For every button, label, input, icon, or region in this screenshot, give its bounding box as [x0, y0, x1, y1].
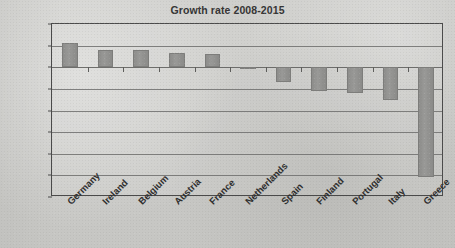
x-axis-tick — [88, 67, 89, 72]
y-tick-mark — [48, 175, 52, 176]
plot-area — [51, 23, 443, 196]
bar-ireland — [98, 50, 114, 67]
gridline--15% — [52, 132, 442, 133]
bar-belgium — [133, 50, 149, 67]
y-tick-mark — [48, 67, 52, 68]
x-axis-tick — [266, 67, 267, 72]
gridline--25% — [52, 175, 442, 176]
bar-spain — [276, 67, 292, 82]
x-axis-tick — [301, 67, 302, 72]
x-axis-tick — [408, 67, 409, 72]
chart-page: Growth rate 2008-2015 10%5%0%-5%-10%-15%… — [0, 0, 455, 248]
y-tick-mark — [48, 45, 52, 46]
x-axis-tick — [195, 67, 196, 72]
y-tick-mark — [48, 153, 52, 154]
y-tick-mark — [48, 88, 52, 89]
bar-portugal — [347, 67, 363, 93]
x-axis-tick — [123, 67, 124, 72]
bar-germany — [62, 43, 78, 68]
chart-title: Growth rate 2008-2015 — [0, 4, 455, 16]
bar-france — [205, 54, 221, 67]
gridline--10% — [52, 111, 442, 112]
y-tick-mark — [48, 132, 52, 133]
gridline-5% — [52, 46, 442, 47]
x-axis-tick — [230, 67, 231, 72]
bar-austria — [169, 53, 185, 67]
bar-finland — [311, 67, 327, 91]
y-tick-mark — [48, 110, 52, 111]
gridline--20% — [52, 154, 442, 155]
y-tick-mark — [48, 197, 52, 198]
x-axis-tick — [159, 67, 160, 72]
x-axis-tick — [337, 67, 338, 72]
y-tick-mark — [48, 24, 52, 25]
bar-netherlands — [240, 67, 256, 69]
bar-greece — [418, 67, 434, 177]
bar-italy — [383, 67, 399, 99]
x-axis-tick — [373, 67, 374, 72]
